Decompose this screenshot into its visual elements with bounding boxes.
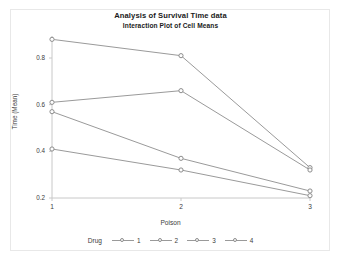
chart-screenshot: Analysis of Survival Time data Interacti… xyxy=(0,0,341,268)
data-point xyxy=(308,194,312,198)
legend-entry-3[interactable]: 3 xyxy=(187,236,216,244)
data-point xyxy=(50,110,54,114)
legend-label: 4 xyxy=(250,237,254,244)
data-point xyxy=(50,37,54,41)
data-point xyxy=(50,100,54,104)
y-tick-label: 0.4 xyxy=(21,147,45,154)
data-point xyxy=(179,89,183,93)
axis-ticks xyxy=(49,58,310,201)
x-tick-label: 1 xyxy=(42,203,62,210)
legend-marker-icon xyxy=(112,236,134,244)
legend-marker-icon xyxy=(187,236,209,244)
data-point xyxy=(179,54,183,58)
data-point xyxy=(308,189,312,193)
legend-label: 1 xyxy=(137,237,141,244)
y-tick-label: 0.2 xyxy=(21,194,45,201)
y-tick-label: 0.8 xyxy=(21,54,45,61)
data-point xyxy=(179,168,183,172)
series-line-1 xyxy=(50,37,312,170)
legend: Drug 1234 xyxy=(0,236,341,244)
y-axis-title: Time (Mean) xyxy=(11,82,18,142)
legend-title: Drug xyxy=(88,237,102,244)
legend-entry-4[interactable]: 4 xyxy=(225,236,254,244)
legend-entries: 1234 xyxy=(112,236,253,244)
legend-marker-icon xyxy=(225,236,247,244)
plot-svg xyxy=(0,0,341,268)
axes xyxy=(52,36,310,198)
legend-entry-2[interactable]: 2 xyxy=(150,236,179,244)
data-point xyxy=(308,168,312,172)
series-path xyxy=(52,112,310,191)
series-path xyxy=(52,39,310,167)
series-line-3 xyxy=(50,110,312,194)
data-point xyxy=(179,156,183,160)
data-series-group xyxy=(50,37,312,198)
x-axis-title: Poison xyxy=(0,219,341,226)
data-point xyxy=(50,147,54,151)
x-tick-label: 3 xyxy=(300,203,320,210)
legend-entry-1[interactable]: 1 xyxy=(112,236,141,244)
series-line-4 xyxy=(50,147,312,198)
legend-label: 3 xyxy=(212,237,216,244)
legend-label: 2 xyxy=(175,237,179,244)
plot-area: Time (Mean) Poison 0.20.40.60.8 123 xyxy=(0,0,341,268)
x-tick-label: 2 xyxy=(171,203,191,210)
legend-marker-icon xyxy=(150,236,172,244)
y-tick-label: 0.6 xyxy=(21,101,45,108)
